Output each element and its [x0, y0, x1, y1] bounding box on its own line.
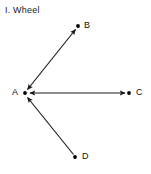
edge-a-b	[28, 30, 76, 90]
node-d-dot	[73, 155, 77, 159]
node-label-c: C	[136, 88, 143, 97]
edge-d-a	[28, 98, 74, 155]
node-c-dot	[127, 91, 131, 95]
node-group	[23, 24, 131, 159]
node-label-b: B	[84, 21, 90, 30]
node-a-dot	[23, 91, 27, 95]
node-b-dot	[76, 24, 80, 28]
edge-group	[28, 30, 126, 155]
graph-canvas	[0, 0, 151, 174]
wheel-diagram-figure: I. Wheel A B C D	[0, 0, 151, 174]
node-label-a: A	[12, 88, 18, 97]
node-label-d: D	[82, 152, 89, 161]
